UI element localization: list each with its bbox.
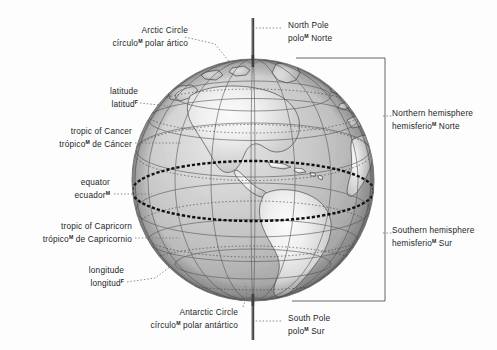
globe-diagram-svg [0,0,497,350]
globe-diagram-page: Arctic Circle círculoM polar ártico lati… [0,0,497,350]
label-tropic-of-capricorn-es: trópicoM de Capricornio [6,232,132,245]
label-southern-hemisphere-es-after: Sur [436,238,452,248]
label-longitude-es-before: longitud [90,278,120,288]
label-equator-gender: M [106,190,110,196]
label-southern-hemisphere: Southern hemisphere hemisferioM Sur [392,225,475,248]
label-tropic-of-capricorn-es-before: trópico [43,234,69,244]
label-equator-es-before: ecuador [75,190,106,200]
label-arctic-circle: Arctic Circle círculoM polar ártico [56,25,188,48]
label-antarctic-circle: Antarctic Circle círculoM polar antártic… [108,307,238,330]
label-longitude-gender: F [121,278,124,284]
label-southern-hemisphere-es: hemisferioM Sur [392,236,475,249]
label-south-pole-es: poloM Sur [288,324,330,337]
label-arctic-circle-es-after: polar ártico [142,38,188,48]
label-south-pole-en: South Pole [288,313,330,324]
label-antarctic-circle-es-before: círculo [151,320,177,330]
label-northern-hemisphere: Northern hemisphere hemisferioM Norte [392,108,473,131]
label-latitude-es-before: latitud [112,99,135,109]
label-north-pole-es-before: polo [288,33,304,43]
label-tropic-of-cancer-es: trópicoM de Cáncer [20,137,132,150]
label-northern-hemisphere-es: hemisferioM Norte [392,119,473,132]
label-northern-hemisphere-es-before: hemisferio [392,121,432,131]
label-longitude-en: longitude [38,265,124,276]
label-arctic-circle-en: Arctic Circle [56,25,188,36]
label-tropic-of-cancer: tropic of Cancer trópicoM de Cáncer [20,126,132,149]
label-longitude-es: longitudF [38,276,124,289]
label-latitude-gender: F [135,99,138,105]
scandinavia-limb [352,85,374,99]
label-arctic-circle-es: círculoM polar ártico [56,36,188,49]
label-north-pole-es-after: Norte [309,33,333,43]
label-north-pole-en: North Pole [288,20,332,31]
label-north-pole-es: poloM Norte [288,31,332,44]
label-tropic-of-capricorn: tropic of Capricorn trópicoM de Capricor… [6,221,132,244]
label-tropic-of-cancer-es-before: trópico [59,139,85,149]
label-latitude: latitude latitudF [52,86,138,109]
label-tropic-of-cancer-es-after: de Cáncer [90,139,132,149]
globe [132,59,374,301]
label-tropic-of-capricorn-es-after: de Capricornio [73,234,132,244]
label-equator-en: equator [32,177,110,188]
label-south-pole-es-after: Sur [309,326,325,336]
label-antarctic-circle-es-after: polar antártico [180,320,238,330]
label-tropic-of-cancer-en: tropic of Cancer [20,126,132,137]
label-latitude-es: latitudF [52,97,138,110]
leader-arctic-circle [185,37,232,65]
label-arctic-circle-es-before: círculo [113,38,139,48]
label-north-pole: North Pole poloM Norte [288,20,332,43]
label-south-pole: South Pole poloM Sur [288,313,330,336]
label-equator: equator ecuadorM [32,177,110,200]
globe-rim-shading [132,59,374,301]
label-south-pole-es-before: polo [288,326,304,336]
label-southern-hemisphere-es-before: hemisferio [392,238,432,248]
label-tropic-of-capricorn-en: tropic of Capricorn [6,221,132,232]
label-latitude-en: latitude [52,86,138,97]
label-northern-hemisphere-es-after: Norte [436,121,460,131]
label-northern-hemisphere-en: Northern hemisphere [392,108,473,119]
label-longitude: longitude longitudF [38,265,124,288]
label-antarctic-circle-en: Antarctic Circle [108,307,238,318]
label-southern-hemisphere-en: Southern hemisphere [392,225,475,236]
label-equator-es: ecuadorM [32,188,110,201]
label-antarctic-circle-es: círculoM polar antártico [108,318,238,331]
